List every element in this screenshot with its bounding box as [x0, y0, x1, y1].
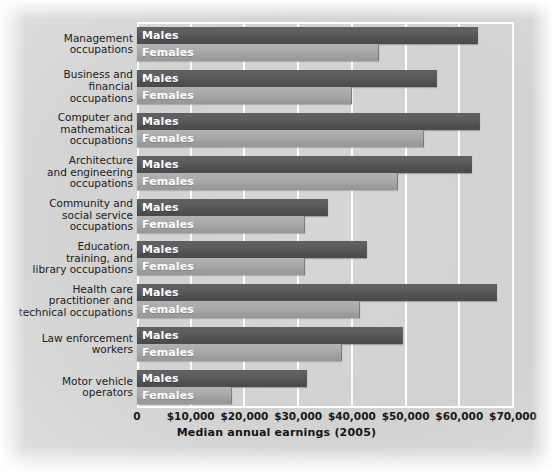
- bar-males[interactable]: Males: [137, 27, 478, 44]
- bar-fill: [137, 27, 478, 44]
- x-tick-label: $40,000: [328, 410, 376, 422]
- category-axis: Management occupationsBusiness and finan…: [0, 22, 133, 408]
- bar-series-label: Females: [142, 46, 194, 59]
- category-label: Computer and mathematical occupations: [1, 112, 133, 147]
- bar-females[interactable]: Females: [137, 258, 305, 275]
- bar-males[interactable]: Males: [137, 156, 472, 173]
- bar-group: MalesFemales: [137, 113, 513, 147]
- bar-fill: [137, 284, 497, 301]
- x-axis-title: Median annual earnings (2005): [0, 426, 553, 439]
- bar-series-label: Males: [142, 201, 179, 214]
- bar-series-label: Males: [142, 372, 179, 385]
- category-label: Law enforcement workers: [1, 333, 133, 356]
- bar-females[interactable]: Females: [137, 216, 305, 233]
- bar-group: MalesFemales: [137, 27, 513, 61]
- x-tick-label: $70,000: [489, 410, 537, 422]
- plot-area: MalesFemalesMalesFemalesMalesFemalesMale…: [137, 22, 513, 408]
- bar-group: MalesFemales: [137, 241, 513, 275]
- bar-females[interactable]: Females: [137, 130, 424, 147]
- x-axis-ticks: 0$10,000$20,000$30,000$40,000$50,000$60,…: [137, 410, 515, 426]
- bar-series-label: Females: [142, 260, 194, 273]
- bar-females[interactable]: Females: [137, 87, 352, 104]
- bar-group: MalesFemales: [137, 199, 513, 233]
- bar-series-label: Females: [142, 132, 194, 145]
- bar-group: MalesFemales: [137, 156, 513, 190]
- bar-series-label: Males: [142, 115, 179, 128]
- bar-series-label: Females: [142, 175, 194, 188]
- x-tick-label: 0: [133, 410, 140, 422]
- x-tick-label: $50,000: [382, 410, 430, 422]
- bar-series-label: Males: [142, 72, 179, 85]
- bar-males[interactable]: Males: [137, 241, 367, 258]
- bar-series-label: Females: [142, 346, 194, 359]
- bar-fill: [137, 70, 437, 87]
- bar-series-label: Females: [142, 389, 194, 402]
- bar-males[interactable]: Males: [137, 327, 403, 344]
- bar-males[interactable]: Males: [137, 70, 437, 87]
- bar-series-label: Females: [142, 89, 194, 102]
- category-label: Management occupations: [1, 33, 133, 56]
- bar-males[interactable]: Males: [137, 113, 480, 130]
- bar-females[interactable]: Females: [137, 44, 379, 61]
- x-tick-label: $10,000: [167, 410, 215, 422]
- bar-group: MalesFemales: [137, 70, 513, 104]
- bar-females[interactable]: Females: [137, 301, 360, 318]
- x-tick-label: $20,000: [221, 410, 269, 422]
- category-label: Business and financial occupations: [1, 69, 133, 104]
- bar-series-label: Males: [142, 29, 179, 42]
- category-label: Health care practitioner and technical o…: [1, 284, 133, 319]
- bar-males[interactable]: Males: [137, 284, 497, 301]
- bar-males[interactable]: Males: [137, 199, 328, 216]
- bar-group: MalesFemales: [137, 370, 513, 404]
- category-label: Architecture and engineering occupations: [1, 155, 133, 190]
- bar-fill: [137, 113, 480, 130]
- chart-figure: Management occupationsBusiness and finan…: [0, 0, 553, 472]
- category-label: Education, training, and library occupat…: [1, 241, 133, 276]
- bar-females[interactable]: Females: [137, 387, 232, 404]
- bar-females[interactable]: Females: [137, 173, 398, 190]
- category-label: Community and social service occupations: [1, 198, 133, 233]
- bar-series-label: Males: [142, 286, 179, 299]
- bar-fill: [137, 156, 472, 173]
- x-tick-label: $30,000: [274, 410, 322, 422]
- bar-series-label: Males: [142, 243, 179, 256]
- bar-females[interactable]: Females: [137, 344, 342, 361]
- category-label: Motor vehicle operators: [1, 376, 133, 399]
- bar-series-label: Females: [142, 303, 194, 316]
- bar-series-label: Females: [142, 218, 194, 231]
- x-tick-label: $60,000: [435, 410, 483, 422]
- bar-series-label: Males: [142, 158, 179, 171]
- bar-group: MalesFemales: [137, 327, 513, 361]
- bar-males[interactable]: Males: [137, 370, 307, 387]
- bar-series-label: Males: [142, 329, 179, 342]
- bar-group: MalesFemales: [137, 284, 513, 318]
